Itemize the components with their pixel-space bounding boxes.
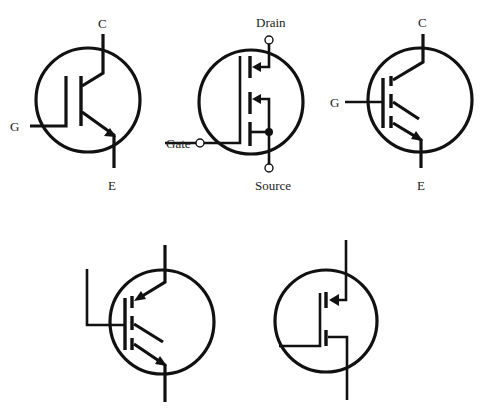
body-lead xyxy=(134,324,163,342)
collector-lead xyxy=(393,34,423,80)
label-emitter: E xyxy=(417,178,425,193)
source-terminal[interactable] xyxy=(265,164,273,172)
gate-lead xyxy=(87,269,125,325)
label-emitter: E xyxy=(108,178,116,193)
junction-dot xyxy=(265,128,273,136)
drain-arrow-icon xyxy=(252,62,261,72)
label-gate: G xyxy=(330,95,339,110)
label-collector: C xyxy=(418,15,427,30)
symbol-mosfet xyxy=(275,240,377,400)
label-source: Source xyxy=(255,178,291,193)
gate-terminal[interactable] xyxy=(196,139,204,147)
gate-lead xyxy=(165,56,240,143)
label-gate: G xyxy=(10,119,19,134)
emitter-lead xyxy=(82,112,114,168)
transistor-symbols-figure: C G E Drain Gate Source xyxy=(0,0,486,420)
device-circle xyxy=(36,48,140,152)
label-gate: Gate xyxy=(166,136,191,151)
drain-arrow-icon xyxy=(329,294,339,306)
symbol-igbt-bjt-style: C G E xyxy=(10,16,140,193)
drain-lead xyxy=(256,44,269,67)
label-drain: Drain xyxy=(256,15,286,30)
body-lead xyxy=(393,102,419,119)
gate-lead xyxy=(279,293,320,346)
drain-terminal[interactable] xyxy=(265,36,273,44)
collector-lead xyxy=(82,34,103,86)
symbol-igbt-alternate xyxy=(87,245,214,402)
body-arrow-icon xyxy=(252,94,261,104)
device-circle xyxy=(275,270,377,372)
symbol-igbt-mosfet-style: Drain Gate Source xyxy=(165,15,303,193)
label-collector: C xyxy=(98,16,107,31)
symbol-igbt-common: C G E xyxy=(330,15,472,193)
